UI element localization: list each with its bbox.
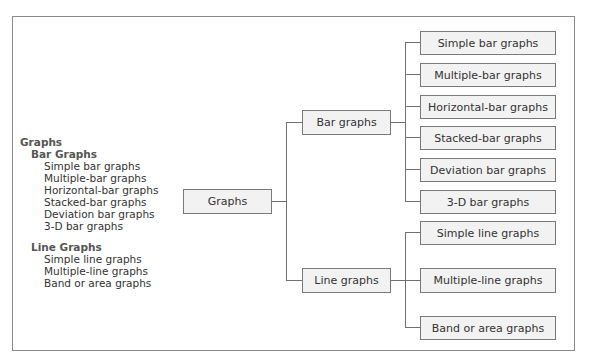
connector	[405, 232, 420, 233]
outline-item: Simple bar graphs	[20, 160, 158, 172]
connector	[405, 42, 406, 202]
connector	[286, 122, 287, 281]
leaf-node: Deviation bar graphs	[420, 158, 556, 182]
outline-group-title: Bar Graphs	[20, 148, 158, 160]
outline-spacer	[20, 232, 158, 241]
connector	[405, 106, 420, 107]
connector	[286, 280, 302, 281]
branch-node-line-graphs: Line graphs	[302, 268, 391, 293]
connector	[286, 122, 302, 123]
outline-item: Multiple-bar graphs	[20, 172, 158, 184]
outline-item: 3-D bar graphs	[20, 220, 158, 232]
outline-group-title: Line Graphs	[20, 241, 158, 253]
outline-item: Stacked-bar graphs	[20, 196, 158, 208]
leaf-node: Band or area graphs	[420, 316, 556, 340]
connector	[405, 137, 420, 138]
leaf-node: Simple line graphs	[420, 221, 556, 245]
connector	[405, 42, 420, 43]
connector	[405, 74, 420, 75]
connector	[391, 280, 406, 281]
outline-item: Simple line graphs	[20, 253, 158, 265]
outline-item: Horizontal-bar graphs	[20, 184, 158, 196]
connector	[405, 280, 420, 281]
connector	[405, 327, 420, 328]
leaf-node: Multiple-line graphs	[420, 268, 556, 293]
connector	[405, 169, 420, 170]
leaf-node: Stacked-bar graphs	[420, 126, 556, 150]
leaf-node: Multiple-bar graphs	[420, 63, 556, 87]
outline-root: Graphs	[20, 136, 158, 148]
outline-item: Multiple-line graphs	[20, 265, 158, 277]
outline-list: Graphs Bar Graphs Simple bar graphs Mult…	[20, 136, 158, 289]
connector	[405, 201, 420, 202]
branch-node-bar-graphs: Bar graphs	[302, 110, 391, 135]
outline-item: Band or area graphs	[20, 277, 158, 289]
outline-item: Deviation bar graphs	[20, 208, 158, 220]
leaf-node: Simple bar graphs	[420, 31, 556, 55]
connector	[391, 122, 406, 123]
leaf-node: 3-D bar graphs	[420, 190, 556, 214]
leaf-node: Horizontal-bar graphs	[420, 95, 556, 119]
connector	[272, 201, 287, 202]
tree-root-node: Graphs	[183, 189, 272, 214]
